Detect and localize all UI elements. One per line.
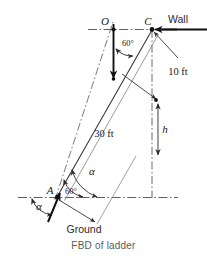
label-dim-ten-ft: 10 ft xyxy=(168,66,188,77)
label-angle-alpha-upper: α xyxy=(89,165,95,177)
fbd-ladder-figure: O C A Wall Ground 10 ft 30 ft h 60° 60° … xyxy=(0,0,207,262)
ten-ft-lower-leader xyxy=(122,74,156,99)
ten-ft-upper-leader xyxy=(154,32,178,58)
figure-caption: FBD of ladder xyxy=(0,240,207,251)
label-angle-sixty-top: 60° xyxy=(122,38,134,48)
cg-reference-line xyxy=(55,22,113,200)
label-point-c: C xyxy=(144,15,152,27)
label-point-a: A xyxy=(46,184,54,196)
point-marker-cg xyxy=(112,77,116,81)
point-marker-a xyxy=(55,195,60,200)
angle-arc-alpha-lower-base xyxy=(32,199,52,215)
point-marker-c xyxy=(150,27,155,32)
angle-arc-sixty-top xyxy=(116,49,133,56)
ladder-member xyxy=(57,30,158,201)
thirty-ft-witness-line xyxy=(97,156,136,224)
label-wall: Wall xyxy=(168,13,188,25)
label-point-o: O xyxy=(101,15,109,27)
label-dim-thirty-ft: 30 ft xyxy=(94,128,114,139)
label-angle-sixty-base: 60° xyxy=(65,186,77,196)
label-dim-h: h xyxy=(162,123,168,135)
label-ground: Ground xyxy=(66,223,101,235)
point-marker-o xyxy=(111,27,115,31)
point-marker-h-top xyxy=(154,98,158,102)
label-angle-alpha-lower: α xyxy=(36,200,42,212)
thirty-ft-leader xyxy=(59,200,95,222)
fbd-ladder-svg: O C A Wall Ground 10 ft 30 ft h 60° 60° … xyxy=(0,0,207,262)
